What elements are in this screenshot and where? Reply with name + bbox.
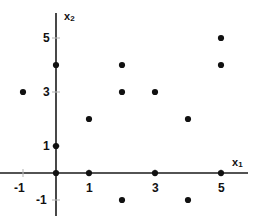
data-point [86,170,92,176]
data-point [185,197,191,203]
data-point [20,89,26,95]
x-tick-label: 1 [86,182,93,194]
data-point [218,35,224,41]
x-axis-label-subscript: 1 [238,160,242,169]
data-point [53,170,59,176]
data-point [119,62,125,68]
data-point [53,62,59,68]
data-point [152,89,158,95]
data-point [218,170,224,176]
data-point [53,143,59,149]
y-tick-label: 1 [43,140,50,152]
y-axis-label-subscript: 2 [70,14,74,23]
plot-canvas [0,0,265,221]
axes-group [0,13,248,216]
data-point [185,116,191,122]
data-point [119,197,125,203]
x-tick-label: 5 [218,182,225,194]
x-tick-label: 3 [152,182,159,194]
y-tick-label: 3 [43,86,50,98]
data-points-group [20,35,224,203]
y-tick-label: 5 [43,32,50,44]
y-tick-label: -1 [36,194,47,206]
scatter-plot: -1135-1135x1x2 [0,0,265,221]
x-tick-label: -1 [14,182,25,194]
data-point [152,170,158,176]
data-point [119,89,125,95]
data-point [86,116,92,122]
y-axis-label: x2 [64,11,75,22]
data-point [218,62,224,68]
x-axis-label: x1 [232,157,243,168]
